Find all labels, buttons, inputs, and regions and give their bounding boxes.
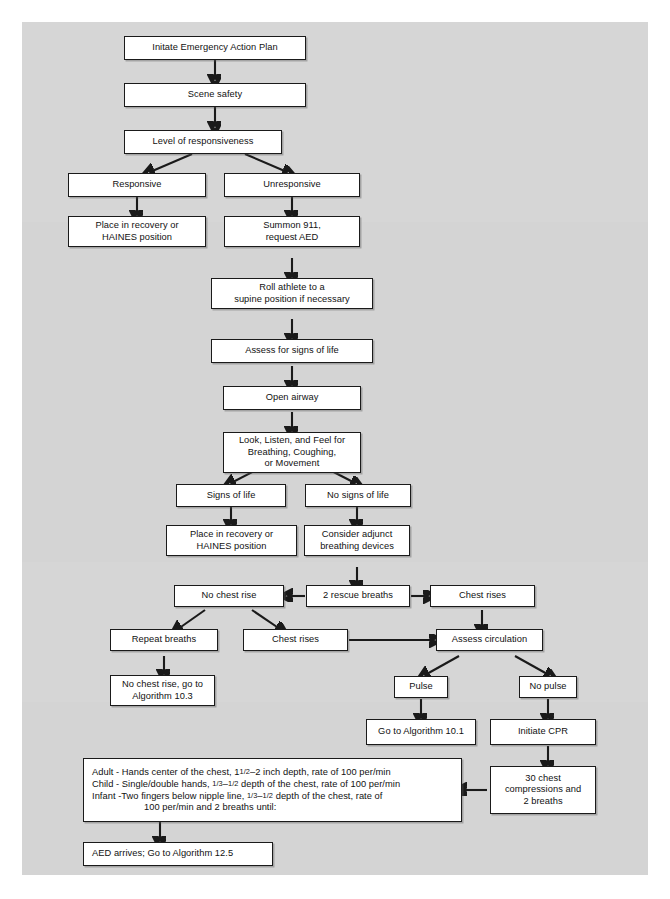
node-no-pulse[interactable]: No pulse bbox=[519, 676, 577, 698]
node-open-airway[interactable]: Open airway bbox=[223, 386, 361, 410]
node-scene-safety[interactable]: Scene safety bbox=[124, 83, 306, 107]
node-place-recovery-haines-1[interactable]: Place in recovery or HAINES position bbox=[68, 216, 206, 247]
cpr-details-text: Adult - Hands center of the chest, 11/2–… bbox=[92, 766, 400, 814]
node-responsive[interactable]: Responsive bbox=[68, 173, 206, 197]
fraction-one-half: 1/2 bbox=[228, 779, 238, 788]
node-assess-circulation[interactable]: Assess circulation bbox=[436, 629, 543, 651]
node-30-chest-compressions[interactable]: 30 chest compressions and 2 breaths bbox=[490, 766, 596, 814]
node-no-chest-rise[interactable]: No chest rise bbox=[174, 585, 284, 607]
node-signs-of-life[interactable]: Signs of life bbox=[176, 484, 286, 507]
node-look-listen-feel[interactable]: Look, Listen, and Feel for Breathing, Co… bbox=[223, 432, 361, 473]
node-go-to-algorithm-101[interactable]: Go to Algorithm 10.1 bbox=[366, 719, 476, 745]
node-no-signs-of-life[interactable]: No signs of life bbox=[305, 484, 411, 507]
node-label: Scene safety bbox=[188, 89, 242, 101]
node-summon-911[interactable]: Summon 911, request AED bbox=[224, 216, 360, 247]
node-label: Pulse bbox=[409, 681, 433, 693]
node-chest-rises-mid[interactable]: Chest rises bbox=[243, 629, 348, 651]
node-label: Initate Emergency Action Plan bbox=[152, 42, 277, 54]
node-label: No chest rise bbox=[202, 590, 257, 602]
node-assess-signs-of-life[interactable]: Assess for signs of life bbox=[211, 339, 373, 363]
node-level-of-responsiveness[interactable]: Level of responsiveness bbox=[124, 130, 282, 154]
node-aed-arrives[interactable]: AED arrives; Go to Algorithm 12.5 bbox=[83, 842, 273, 866]
cpr-details-line-1: Adult - Hands center of the chest, 11/2–… bbox=[92, 767, 391, 777]
cpr-details-line-2: Child - Single/double hands, 1/3–1/2 dep… bbox=[92, 779, 400, 789]
node-label: Look, Listen, and Feel for Breathing, Co… bbox=[239, 435, 345, 470]
node-label: Assess circulation bbox=[452, 634, 527, 646]
node-unresponsive[interactable]: Unresponsive bbox=[224, 173, 360, 197]
fraction-one-half: 1/2 bbox=[263, 791, 273, 800]
node-label: Roll athlete to a supine position if nec… bbox=[234, 282, 350, 305]
cpr-details-line-3: Infant -Two fingers below nipple line, 1… bbox=[92, 791, 382, 801]
node-label: Unresponsive bbox=[263, 179, 320, 191]
node-label: Open airway bbox=[266, 392, 319, 404]
node-label: Signs of life bbox=[207, 490, 256, 502]
node-place-recovery-haines-2[interactable]: Place in recovery or HAINES position bbox=[166, 525, 297, 556]
node-label: No signs of life bbox=[327, 490, 389, 502]
node-label: Level of responsiveness bbox=[153, 136, 254, 148]
node-initiate-cpr[interactable]: Initiate CPR bbox=[490, 719, 596, 745]
node-2-rescue-breaths[interactable]: 2 rescue breaths bbox=[306, 585, 410, 607]
node-label: Initiate CPR bbox=[518, 726, 568, 738]
node-label: No chest rise, go to Algorithm 10.3 bbox=[122, 679, 203, 702]
fraction-one-third: 1/3 bbox=[247, 791, 257, 800]
node-label: Assess for signs of life bbox=[245, 345, 339, 357]
node-label: Chest rises bbox=[272, 634, 319, 646]
node-no-chest-rise-go-to[interactable]: No chest rise, go to Algorithm 10.3 bbox=[110, 675, 215, 706]
node-label: 30 chest compressions and 2 breaths bbox=[505, 773, 581, 808]
node-label: 2 rescue breaths bbox=[323, 590, 393, 602]
figure-page: Initate Emergency Action Plan Scene safe… bbox=[0, 0, 670, 899]
node-roll-athlete[interactable]: Roll athlete to a supine position if nec… bbox=[211, 278, 373, 309]
node-label: Summon 911, request AED bbox=[263, 220, 321, 243]
node-consider-adjunct[interactable]: Consider adjunct breathing devices bbox=[304, 525, 410, 556]
node-pulse[interactable]: Pulse bbox=[394, 676, 448, 698]
node-label: AED arrives; Go to Algorithm 12.5 bbox=[92, 848, 233, 860]
node-label: Place in recovery or HAINES position bbox=[95, 220, 178, 243]
node-label: Place in recovery or HAINES position bbox=[190, 529, 273, 552]
node-label: Chest rises bbox=[459, 590, 506, 602]
fraction-one-third: 1/3 bbox=[212, 779, 222, 788]
node-label: Repeat breaths bbox=[132, 634, 196, 646]
cpr-details-line-4: 100 per/min and 2 breaths until: bbox=[92, 802, 276, 814]
flowchart: Initate Emergency Action Plan Scene safe… bbox=[0, 0, 670, 899]
fraction-one-half: 1/2 bbox=[240, 767, 250, 776]
node-cpr-details[interactable]: Adult - Hands center of the chest, 11/2–… bbox=[83, 758, 462, 822]
node-chest-rises-right[interactable]: Chest rises bbox=[430, 585, 535, 607]
node-repeat-breaths[interactable]: Repeat breaths bbox=[110, 629, 218, 651]
node-label: Responsive bbox=[112, 179, 161, 191]
node-label: Go to Algorithm 10.1 bbox=[378, 726, 464, 738]
node-label: No pulse bbox=[529, 681, 566, 693]
node-label: Consider adjunct breathing devices bbox=[320, 529, 394, 552]
node-initiate-eap[interactable]: Initate Emergency Action Plan bbox=[124, 36, 306, 60]
